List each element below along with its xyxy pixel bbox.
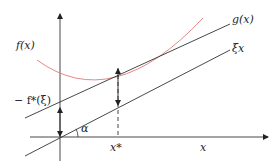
label-g: g(x) — [232, 14, 254, 25]
label-alpha: α — [81, 123, 88, 134]
label-neg-conj: − f*(ξ) — [14, 95, 51, 106]
label-xi-x: ξx — [232, 43, 244, 54]
label-x-axis: x — [200, 142, 206, 153]
label-f: f(x) — [16, 40, 35, 51]
angle-alpha-arc — [76, 129, 78, 137]
curve-f — [37, 18, 203, 80]
label-x-star: x* — [110, 142, 122, 153]
